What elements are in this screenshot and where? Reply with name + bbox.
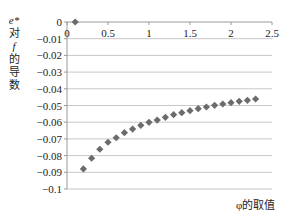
data-point-diamond: [96, 146, 103, 153]
data-point-diamond: [178, 109, 185, 116]
y-tick-label: −0.05: [37, 100, 63, 112]
y-axis-label-line: 的: [6, 53, 22, 66]
scatter-chart: 0−0.01−0.02−0.03−0.04−0.05−0.06−0.07−0.0…: [0, 0, 291, 218]
data-point-diamond: [236, 98, 243, 105]
y-axis-label: e*对f的导数: [6, 14, 22, 92]
x-tick-label: 2.5: [265, 27, 279, 39]
y-tick-label: −0.1: [42, 183, 62, 195]
data-point-diamond: [80, 165, 87, 172]
data-point-diamond: [252, 95, 259, 102]
y-axis-tick-labels: 0−0.01−0.02−0.03−0.04−0.05−0.06−0.07−0.0…: [37, 16, 63, 195]
y-tick-label: −0.09: [37, 166, 63, 178]
x-tick-label: 0.5: [101, 27, 115, 39]
y-tick-label: −0.01: [37, 33, 62, 45]
data-point-diamond: [211, 102, 218, 109]
y-tick-label: −0.08: [37, 150, 63, 162]
y-axis-label-line: 对: [6, 27, 22, 40]
data-point-diamond: [72, 18, 79, 25]
data-point-diamond: [244, 97, 251, 104]
x-tick-label: 1: [146, 27, 152, 39]
data-point-diamond: [121, 129, 128, 136]
gridlines: [67, 39, 272, 189]
data-points: [72, 18, 260, 172]
y-tick-label: −0.07: [37, 133, 63, 145]
y-axis-label-line: f: [6, 40, 22, 53]
data-point-diamond: [203, 103, 210, 110]
x-tick-label: 0: [64, 27, 70, 39]
data-point-diamond: [113, 134, 120, 141]
data-point-diamond: [129, 125, 136, 132]
y-tick-label: −0.04: [37, 83, 63, 95]
y-axis-label-line: e*: [6, 14, 22, 27]
x-tick-label: 2: [228, 27, 234, 39]
data-point-diamond: [195, 105, 202, 112]
y-tick-label: −0.06: [37, 116, 63, 128]
x-axis-label: φ的取值: [236, 196, 275, 212]
data-point-diamond: [145, 119, 152, 126]
data-point-diamond: [186, 107, 193, 114]
x-axis-tick-labels: 00.511.522.5: [64, 27, 279, 39]
data-point-diamond: [170, 111, 177, 118]
data-point-diamond: [162, 114, 169, 121]
data-point-diamond: [104, 139, 111, 146]
y-axis-label-line: 数: [6, 79, 22, 92]
y-tick-label: −0.03: [37, 66, 63, 78]
y-tick-label: 0: [57, 16, 63, 28]
y-axis-label-line: 导: [6, 66, 22, 79]
data-point-diamond: [137, 122, 144, 129]
y-tick-label: −0.02: [37, 49, 62, 61]
x-tick-label: 1.5: [183, 27, 197, 39]
data-point-diamond: [219, 100, 226, 107]
